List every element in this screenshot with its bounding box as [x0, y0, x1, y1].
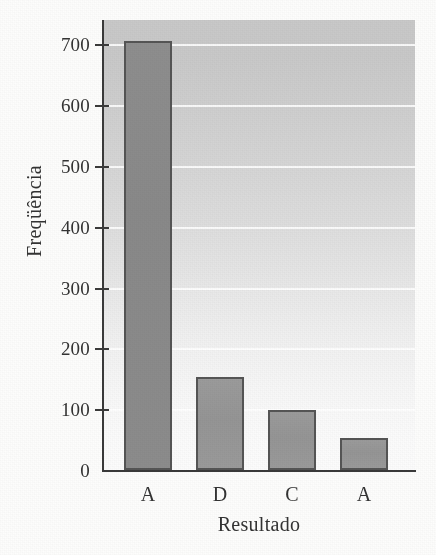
x-tick-label-0: A: [124, 482, 172, 506]
y-axis-line: [102, 20, 104, 472]
y-tick-200: [95, 348, 109, 350]
y-tick-label-100: 100: [32, 400, 90, 419]
x-axis-tick-labels: A D C A: [103, 482, 415, 510]
bar-0[interactable]: [124, 41, 172, 470]
bar-3[interactable]: [340, 438, 388, 470]
bar-chart-figure: 700 600 500 400 300 200 100 0 A D C A Re…: [0, 0, 436, 555]
y-axis-title: Freqüência: [23, 131, 45, 291]
y-tick-label-200: 200: [32, 339, 90, 358]
bar-2[interactable]: [268, 410, 316, 470]
y-tick-300: [95, 288, 109, 290]
y-tick-label-700: 700: [32, 35, 90, 54]
y-tick-500: [95, 166, 109, 168]
y-tick-100: [95, 409, 109, 411]
y-tick-400: [95, 227, 109, 229]
x-axis-title: Resultado: [103, 512, 415, 536]
y-tick-label-0: 0: [32, 461, 90, 480]
x-tick-label-1: D: [196, 482, 244, 506]
y-tick-700: [95, 44, 109, 46]
plot-area: [103, 20, 415, 470]
x-tick-label-3: A: [340, 482, 388, 506]
y-tick-600: [95, 105, 109, 107]
x-tick-label-2: C: [268, 482, 316, 506]
bar-1[interactable]: [196, 377, 244, 470]
x-axis-line: [102, 470, 416, 472]
y-tick-label-600: 600: [32, 96, 90, 115]
